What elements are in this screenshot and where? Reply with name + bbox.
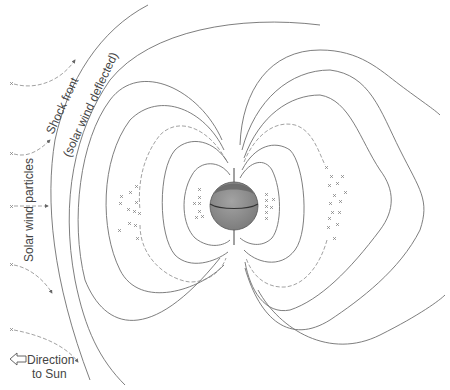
dayside-field-lines (78, 81, 230, 320)
shock-front-lines (51, 5, 320, 385)
direction-to-sun: Direction to Sun (10, 353, 74, 381)
solar-wind-particles-label: Solar wind particles (22, 158, 36, 262)
particle-cluster-right-inner (265, 193, 275, 220)
particle-cluster-left-outer (118, 185, 141, 240)
direction-label-line1: Direction (27, 353, 74, 367)
left-arrow-icon (10, 353, 26, 365)
solar-wind-origins (10, 82, 13, 331)
direction-label-line2: to Sun (32, 367, 67, 381)
nightside-field-lines (240, 50, 445, 344)
earth (210, 168, 258, 245)
particle-cluster-left-inner (193, 188, 204, 219)
magnetosphere-diagram: Shock front (solar wind deflected) Solar… (0, 0, 450, 390)
labels: Shock front (solar wind deflected) Solar… (10, 50, 121, 381)
particle-cluster-right-outer (325, 166, 347, 240)
